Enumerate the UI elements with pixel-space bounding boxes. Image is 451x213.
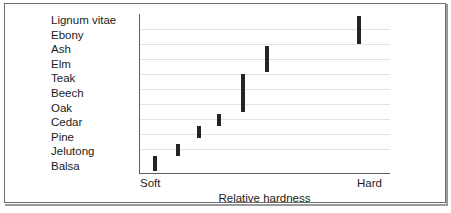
category-label: Teak	[13, 72, 137, 85]
category-label: Beech	[13, 87, 137, 100]
category-label: Pine	[13, 131, 137, 144]
x-axis-tick-hard: Hard	[357, 177, 382, 190]
hardness-chart-figure: Lignum vitaeEbonyAshElmTeakBeechOakCedar…	[0, 0, 451, 213]
category-label: Lignum vitae	[13, 14, 137, 27]
hardness-marker	[197, 126, 201, 138]
gridline	[140, 134, 390, 135]
category-label: Jelutong	[13, 145, 137, 158]
plot-area	[139, 14, 390, 174]
category-label: Ebony	[13, 29, 137, 42]
category-label: Cedar	[13, 116, 137, 129]
hardness-marker	[241, 74, 245, 112]
hardness-marker	[265, 46, 269, 72]
y-axis-line	[139, 14, 140, 174]
gridline	[140, 44, 390, 45]
gridline	[140, 74, 390, 75]
category-label: Balsa	[13, 160, 137, 173]
chart-frame: Lignum vitaeEbonyAshElmTeakBeechOakCedar…	[4, 3, 446, 203]
hardness-marker	[357, 16, 361, 44]
hardness-marker	[217, 114, 221, 126]
category-label-column: Lignum vitaeEbonyAshElmTeakBeechOakCedar…	[13, 14, 137, 176]
frame-shadow-right	[446, 4, 448, 206]
gridline	[140, 119, 390, 120]
x-axis-line	[139, 173, 390, 174]
category-label: Elm	[13, 58, 137, 71]
x-axis-tick-soft: Soft	[140, 177, 160, 190]
gridline	[140, 104, 390, 105]
hardness-marker	[153, 156, 157, 171]
category-label: Ash	[13, 43, 137, 56]
category-label: Oak	[13, 102, 137, 115]
x-axis-title: Relative hardness	[139, 192, 390, 205]
gridline	[140, 29, 390, 30]
hardness-marker	[176, 144, 180, 156]
gridline	[140, 89, 390, 90]
